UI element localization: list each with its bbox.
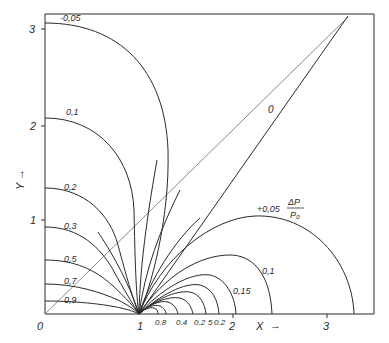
right-contour-family: [139, 216, 354, 314]
label-0-3: 0,3: [64, 221, 77, 231]
label-delta-p: ΔP: [287, 197, 300, 207]
y-tick-2: 2: [29, 120, 36, 132]
contour-plus-0-05: [139, 216, 354, 314]
x-tick-2: 2: [228, 320, 235, 332]
contour-0-9: [45, 301, 139, 314]
y-tick-3: 3: [29, 23, 36, 35]
label-plus-0-05: +0,05: [257, 204, 281, 214]
axis-ticks: [41, 29, 327, 318]
diagonal-lines: [45, 16, 348, 314]
pressure-contour-diagram: 0 1 2 3 1 2 3 X → Y → -0,05 0,1 0,2 0,3 …: [0, 0, 389, 343]
label-zero: 0: [268, 104, 274, 115]
label-bottom-0-2a: 0.2: [194, 318, 206, 327]
x-tick-3: 3: [323, 320, 330, 332]
label-minus-0-05: -0,05: [60, 13, 82, 23]
contour-0-7: [45, 284, 139, 314]
fan-contours: [98, 160, 200, 314]
y-axis-label: Y: [14, 182, 26, 190]
label-bottom-5: 5: [208, 318, 213, 327]
label-bottom-0-2b: 0.2: [214, 318, 226, 327]
label-0-9: 0,9: [64, 295, 77, 305]
label-0-1: 0,1: [66, 107, 79, 117]
label-0-7: 0,7: [64, 276, 78, 286]
contour-minus-0-05: [45, 23, 168, 314]
label-bottom-0-8: 0.8: [155, 318, 167, 327]
label-bottom-0-4: 0.4: [176, 318, 188, 327]
x-axis-label: X: [255, 320, 264, 332]
x-tick-0: 0: [37, 320, 44, 332]
y-axis-arrow: →: [14, 169, 26, 180]
label-plus-0-15: 0,15: [233, 286, 252, 296]
contour-plus-0-1: [139, 255, 272, 314]
label-plus-0-1: 0,1: [262, 266, 275, 276]
x-axis-arrow: →: [270, 319, 281, 331]
y-tick-1: 1: [30, 214, 36, 226]
label-0-5: 0,5: [64, 254, 78, 264]
x-tick-1: 1: [137, 320, 143, 332]
label-p0: P₀: [290, 210, 300, 220]
contour-0-2: [45, 188, 139, 314]
reference-line: [45, 17, 348, 314]
label-0-2: 0,2: [64, 182, 77, 192]
plot-frame: [45, 14, 374, 314]
left-contour-family: [45, 23, 168, 314]
zero-pressure-line: [139, 16, 348, 314]
